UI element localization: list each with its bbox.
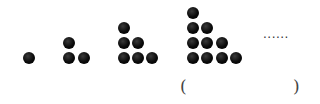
dot: [201, 22, 213, 34]
dot: [146, 52, 158, 64]
dot: [216, 52, 228, 64]
dot: [230, 52, 242, 64]
dot: [78, 52, 90, 64]
dot: [187, 22, 199, 34]
dot: [23, 52, 35, 64]
dot: [118, 52, 130, 64]
dot: [132, 37, 144, 49]
dot: [201, 37, 213, 49]
dot: [201, 52, 213, 64]
dot: [118, 37, 130, 49]
dot: [132, 52, 144, 64]
dot: [187, 52, 199, 64]
dot: [63, 52, 75, 64]
continuation-ellipsis: ......: [263, 27, 289, 41]
dot: [187, 37, 199, 49]
dot: [187, 7, 199, 19]
answer-open-paren: (: [180, 78, 187, 95]
dot: [63, 37, 75, 49]
answer-close-paren: ): [293, 78, 300, 95]
dot: [118, 22, 130, 34]
dot: [216, 37, 228, 49]
